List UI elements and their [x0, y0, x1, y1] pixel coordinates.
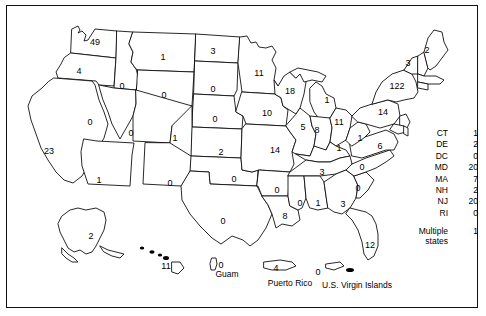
state-value: 0: [355, 184, 360, 193]
virgin-islands-outline: [326, 262, 354, 272]
legend-abbr: CT: [404, 128, 450, 139]
territory-label-guam: Guam: [215, 270, 238, 279]
legend-row: RI 0: [404, 208, 478, 219]
state-value: 23: [44, 147, 54, 156]
state-value: 8: [314, 126, 319, 135]
legend-row: MA 7: [404, 174, 478, 185]
state-value: 3: [210, 47, 215, 56]
state-value: 14: [270, 146, 280, 155]
state-value: 1: [315, 199, 320, 208]
legend-abbr: NJ: [404, 196, 450, 207]
state-value: 2: [424, 46, 429, 55]
state-value: 1: [357, 134, 362, 143]
state-value: 3: [319, 168, 324, 177]
state-value: 14: [378, 108, 388, 117]
state-value: 8: [282, 212, 287, 221]
legend-value: 2: [460, 185, 478, 196]
legend-abbr-multiple: Multiple states: [404, 226, 450, 246]
legend-value: 1: [460, 128, 478, 139]
legend-abbr: RI: [404, 208, 450, 219]
state-value: 11: [254, 69, 263, 78]
state-value: 122: [389, 82, 404, 91]
legend-value: 20: [460, 162, 478, 173]
legend-row: DC 0: [404, 151, 478, 162]
legend-row: NJ 20: [404, 196, 478, 207]
state-value: 12: [365, 241, 375, 250]
state-value: 0: [359, 163, 364, 172]
state-value: 49: [90, 38, 100, 47]
territory-label-virgin-islands: U.S. Virgin Islands: [322, 281, 392, 290]
legend-multiple-line1: Multiple: [404, 226, 448, 236]
state-value: 0: [212, 115, 217, 124]
state-value: 1: [160, 53, 165, 62]
state-value: 3: [340, 200, 345, 209]
state-value: 0: [128, 129, 133, 138]
legend-value: 0: [460, 151, 478, 162]
legend-row: DE 2: [404, 139, 478, 150]
state-value: 0: [87, 118, 92, 127]
state-value: 1: [324, 96, 329, 105]
legend-value: 20: [460, 196, 478, 207]
legend-multiple-line2: states: [404, 236, 448, 246]
state-value: 0: [161, 91, 166, 100]
legend-panel: CT 1 DE 2 DC 0 MD 20 MA 7 NH 2 NJ 20 RI: [404, 128, 478, 246]
territory-value-puerto-rico: 4: [273, 264, 278, 273]
state-value: 0: [220, 217, 225, 226]
state-value: 0: [297, 199, 302, 208]
legend-value-multiple: 1: [460, 226, 478, 237]
legend-row-multiple-states: Multiple states 1: [404, 226, 478, 246]
state-value: 11: [161, 262, 170, 271]
state-value: 5: [300, 123, 305, 132]
puerto-rico-outline: [264, 260, 296, 270]
state-value: 18: [285, 87, 295, 96]
legend-abbr: MA: [404, 174, 450, 185]
territory-value-virgin-islands: 0: [315, 268, 320, 277]
state-value: 1: [172, 134, 177, 143]
state-value: 10: [262, 109, 272, 118]
state-value: 2: [88, 232, 93, 241]
legend-value: 2: [460, 139, 478, 150]
state-value: 1: [336, 144, 341, 153]
legend-row: NH 2: [404, 185, 478, 196]
legend-row: MD 20: [404, 162, 478, 173]
state-value: 4: [76, 67, 81, 76]
map-figure: 49 4 0 1 3 0 0 0 23 0 0 1 1 0 2 0 0 11 1…: [0, 0, 486, 316]
legend-value: 7: [460, 174, 478, 185]
state-value: 0: [231, 175, 236, 184]
state-value: 3: [405, 59, 410, 68]
territory-label-puerto-rico: Puerto Rico: [268, 279, 312, 288]
legend-abbr: DC: [404, 151, 450, 162]
legend-abbr: NH: [404, 185, 450, 196]
state-value: 0: [210, 85, 215, 94]
state-value: 0: [274, 186, 279, 195]
state-value: 2: [218, 148, 223, 157]
state-value: 0: [167, 179, 172, 188]
legend-row: CT 1: [404, 128, 478, 139]
state-value: 11: [334, 118, 343, 127]
state-value: 6: [377, 142, 382, 151]
state-value: 0: [119, 82, 124, 91]
legend-value: 0: [460, 208, 478, 219]
state-value: 1: [96, 176, 101, 185]
legend-abbr: DE: [404, 139, 450, 150]
legend-abbr: MD: [404, 162, 450, 173]
